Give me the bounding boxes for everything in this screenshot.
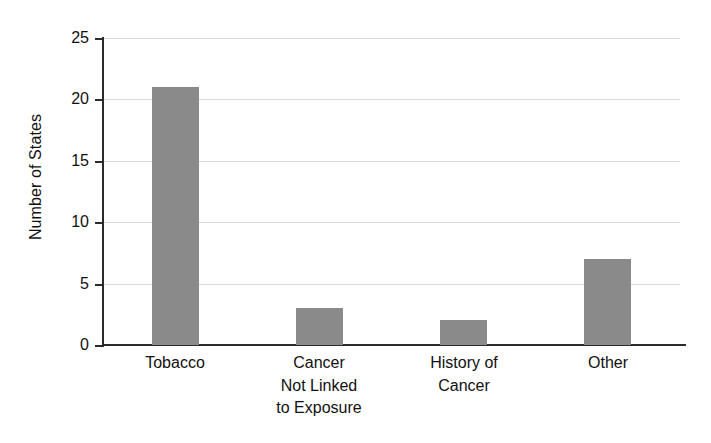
category-label: Tobacco [103,352,247,375]
y-axis-tick-label: 20 [49,91,89,107]
category-label-line: to Exposure [247,397,391,420]
category-label-line: Cancer [247,352,391,375]
category-label: CancerNot Linkedto Exposure [247,352,391,420]
category-label-line: Tobacco [103,352,247,375]
bar [440,320,487,345]
y-axis-tick-label: 25 [49,30,89,46]
bar [152,87,199,345]
y-axis-tick-label: 0 [49,337,89,353]
category-label-line: Cancer [392,375,536,398]
bar [584,259,631,345]
category-label: Other [536,352,680,375]
category-label-line: History of [392,352,536,375]
y-axis-tick-label: 5 [49,276,89,292]
category-label-line: Not Linked [247,375,391,398]
y-axis-tick-label: 10 [49,214,89,230]
y-axis-tick-mark [95,345,104,347]
x-axis-category-labels: TobaccoCancerNot Linkedto ExposureHistor… [103,352,680,442]
category-label: History ofCancer [392,352,536,397]
bar-chart-figure: Number of States 0510152025 TobaccoCance… [0,0,711,443]
bars-group [103,38,680,345]
y-axis-tick-labels: 0510152025 [47,0,89,443]
category-label-line: Other [536,352,680,375]
y-axis-title: Number of States [27,67,45,287]
y-axis-tick-label: 15 [49,153,89,169]
bar [296,308,343,345]
